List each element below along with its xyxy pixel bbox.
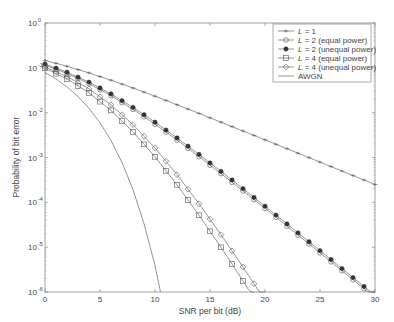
legend-label: AWGN bbox=[298, 72, 323, 81]
filled-circle-marker-icon bbox=[131, 105, 135, 109]
y-tick-exponent: -4 bbox=[38, 196, 43, 202]
series-awgn bbox=[45, 73, 161, 292]
series-line bbox=[45, 65, 375, 292]
y-tick-exponent: 0 bbox=[38, 17, 41, 23]
x-marker-icon bbox=[186, 108, 191, 111]
filled-circle-marker-icon bbox=[307, 240, 311, 244]
legend-label: L = 4 (unequal power) bbox=[298, 63, 376, 72]
x-tick-label: 0 bbox=[43, 295, 48, 304]
filled-circle-marker-icon bbox=[186, 144, 190, 148]
filled-circle-marker-icon bbox=[241, 186, 245, 190]
filled-circle-marker-icon bbox=[153, 120, 157, 124]
legend-label: L = 4 (equal power) bbox=[298, 54, 367, 63]
x-marker-icon bbox=[197, 112, 202, 115]
y-tick-label: 10 bbox=[28, 154, 37, 163]
y-tick-label: 10 bbox=[28, 198, 37, 207]
x-tick-label: 5 bbox=[98, 295, 103, 304]
x-marker-icon bbox=[131, 86, 136, 89]
filled-circle-marker-icon bbox=[329, 257, 333, 261]
x-marker-icon bbox=[54, 62, 59, 65]
x-tick-label: 20 bbox=[261, 295, 270, 304]
filled-circle-marker-icon bbox=[351, 275, 355, 279]
x-axis-label: SNR per bit (dB) bbox=[179, 306, 242, 316]
filled-circle-marker-icon bbox=[230, 178, 234, 182]
y-tick-exponent: -2 bbox=[38, 107, 43, 113]
x-marker-icon bbox=[142, 91, 147, 94]
series-line bbox=[45, 68, 254, 292]
y-tick-exponent: -5 bbox=[38, 241, 43, 247]
filled-circle-marker-icon bbox=[208, 161, 212, 165]
filled-circle-marker-icon bbox=[252, 195, 256, 199]
y-tick-label: 10 bbox=[28, 64, 37, 73]
filled-circle-marker-icon bbox=[263, 204, 267, 208]
series-line bbox=[45, 73, 161, 292]
legend-label: L = 1 bbox=[298, 27, 317, 36]
x-marker-icon bbox=[175, 103, 180, 106]
legend: L = 1L = 2 (equal power)L = 2 (unequal p… bbox=[273, 24, 376, 82]
filled-circle-marker-icon bbox=[175, 136, 179, 140]
filled-circle-marker-icon bbox=[340, 266, 344, 270]
filled-circle-marker-icon bbox=[109, 92, 113, 96]
x-marker-icon bbox=[164, 99, 169, 102]
y-tick-exponent: -6 bbox=[38, 286, 43, 292]
series-l-4-equal-power- bbox=[43, 66, 254, 292]
filled-circle-marker-icon bbox=[362, 284, 366, 288]
x-marker-icon bbox=[219, 121, 224, 124]
filled-circle-marker-icon bbox=[87, 80, 91, 84]
y-axis-label: Probability of bit error bbox=[11, 116, 21, 197]
x-marker-icon bbox=[208, 116, 213, 119]
filled-circle-marker-icon bbox=[120, 99, 124, 103]
filled-circle-marker-icon bbox=[274, 213, 278, 217]
series-line bbox=[45, 64, 375, 292]
filled-circle-marker-icon bbox=[142, 113, 146, 117]
filled-circle-marker-icon bbox=[54, 66, 58, 70]
filled-circle-marker-icon bbox=[98, 86, 102, 90]
y-tick-label: 10 bbox=[28, 288, 37, 297]
filled-circle-marker-icon bbox=[219, 169, 223, 173]
legend-label: L = 2 (unequal power) bbox=[298, 45, 376, 54]
filled-circle-marker-icon bbox=[164, 128, 168, 132]
filled-circle-marker-icon bbox=[197, 152, 201, 156]
filled-circle-marker-icon bbox=[285, 222, 289, 226]
x-marker-icon bbox=[153, 95, 158, 98]
x-marker-icon bbox=[65, 65, 70, 68]
x-marker-icon bbox=[120, 83, 125, 86]
series-l-2-equal-power- bbox=[43, 63, 375, 292]
x-tick-label: 15 bbox=[206, 295, 215, 304]
y-tick-label: 10 bbox=[28, 19, 37, 28]
x-tick-label: 25 bbox=[316, 295, 325, 304]
y-tick-label: 10 bbox=[28, 243, 37, 252]
data-series bbox=[42, 59, 377, 292]
x-marker-icon bbox=[87, 71, 92, 74]
filled-circle-marker-icon bbox=[318, 248, 322, 252]
filled-circle-marker-icon bbox=[296, 231, 300, 235]
x-marker-icon bbox=[43, 59, 48, 62]
ber-chart: 05101520253010010-110-210-310-410-510-6 … bbox=[0, 0, 394, 322]
legend-label: L = 2 (equal power) bbox=[298, 36, 367, 45]
x-tick-label: 10 bbox=[151, 295, 160, 304]
filled-circle-marker-icon bbox=[76, 75, 80, 79]
x-marker-icon bbox=[98, 75, 103, 78]
x-marker-icon bbox=[109, 79, 114, 82]
filled-circle-marker-icon bbox=[284, 47, 288, 51]
y-tick-label: 10 bbox=[28, 109, 37, 118]
x-marker-icon bbox=[76, 68, 81, 71]
x-marker-icon bbox=[230, 125, 235, 128]
x-tick-label: 30 bbox=[371, 295, 380, 304]
y-tick-exponent: -3 bbox=[38, 152, 43, 158]
